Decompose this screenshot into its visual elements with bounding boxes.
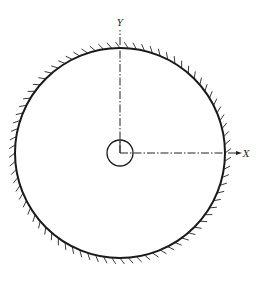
- diagram-canvas: X Y: [0, 0, 259, 282]
- y-axis-label: Y: [117, 18, 124, 28]
- x-axis-label: X: [242, 149, 250, 159]
- x-axis-arrowhead: [236, 151, 242, 155]
